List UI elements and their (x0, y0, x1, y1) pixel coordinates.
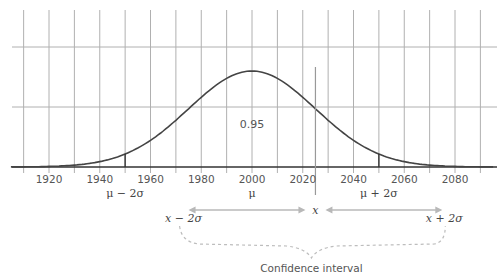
arrowhead-right (298, 207, 305, 214)
x-tick-label: 2040 (340, 173, 367, 185)
x-label: x (312, 204, 319, 217)
x-tick-label: 2080 (442, 173, 469, 185)
tick-labels: 192019401960198020002020204020602080 (36, 173, 469, 185)
x-tick-label: 1960 (137, 173, 164, 185)
x-tick-label: 1920 (36, 173, 63, 185)
x-tick-label: 1940 (86, 173, 113, 185)
x-tick-label: 2000 (239, 173, 266, 185)
normal-distribution-diagram: 192019401960198020002020204020602080 0.9… (0, 0, 502, 279)
mu-minus-2sigma-label: μ − 2σ (106, 187, 144, 200)
confidence-brace (180, 226, 446, 258)
grid (12, 10, 497, 173)
mu-label: μ (248, 187, 255, 200)
x-tick-label: 1980 (188, 173, 215, 185)
confidence-interval-label: Confidence interval (260, 262, 362, 274)
mu-plus-2sigma-label: μ + 2σ (360, 187, 398, 200)
interval-upper-label: x + 2σ (426, 212, 463, 225)
x-tick-label: 2060 (391, 173, 418, 185)
x-tick-label: 2020 (289, 173, 316, 185)
interval-lower-label: x − 2σ (165, 212, 202, 225)
probability-label: 0.95 (240, 118, 265, 131)
arrowhead-left (325, 207, 332, 214)
brace-path (180, 226, 446, 258)
